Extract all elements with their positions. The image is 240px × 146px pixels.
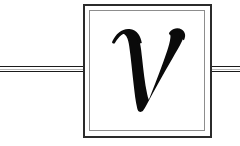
left-terminal-lead [0, 67, 84, 72]
element-box [84, 5, 211, 137]
right-terminal-lead [210, 67, 240, 72]
circuit-symbol-figure [0, 0, 240, 146]
diagram-canvas: v Two-terminal box element labelled v [0, 0, 240, 146]
